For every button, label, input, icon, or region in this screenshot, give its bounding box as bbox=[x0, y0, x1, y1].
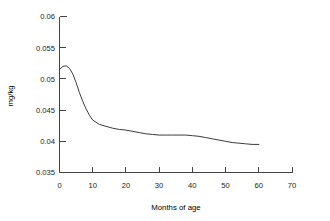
x-tick-label-6: 60 bbox=[255, 181, 263, 190]
x-tick-label-3: 30 bbox=[155, 181, 163, 190]
x-tick-label-4: 40 bbox=[188, 181, 196, 190]
y-tick-label-2: 0.05 bbox=[40, 75, 55, 84]
y-tick-label-0: 0.06 bbox=[40, 12, 55, 21]
x-tick-label-7: 70 bbox=[288, 181, 296, 190]
line-chart-canvas: 0.06 0.055 0.05 0.045 0.04 0.035 0 10 20… bbox=[0, 0, 330, 221]
y-axis-title: mg/kg bbox=[6, 85, 15, 106]
x-tick-label-5: 50 bbox=[221, 181, 229, 190]
x-tick-label-1: 10 bbox=[88, 181, 96, 190]
chart-figure: 0.06 0.055 0.05 0.045 0.04 0.035 0 10 20… bbox=[0, 0, 330, 221]
y-tick-label-3: 0.045 bbox=[36, 106, 55, 115]
y-tick-label-5: 0.035 bbox=[36, 168, 55, 177]
x-tick-label-0: 0 bbox=[57, 181, 61, 190]
x-tick-label-2: 20 bbox=[122, 181, 130, 190]
y-tick-label-1: 0.055 bbox=[36, 44, 55, 53]
x-axis-title: Months of age bbox=[151, 203, 200, 212]
y-tick-label-4: 0.04 bbox=[40, 137, 55, 146]
